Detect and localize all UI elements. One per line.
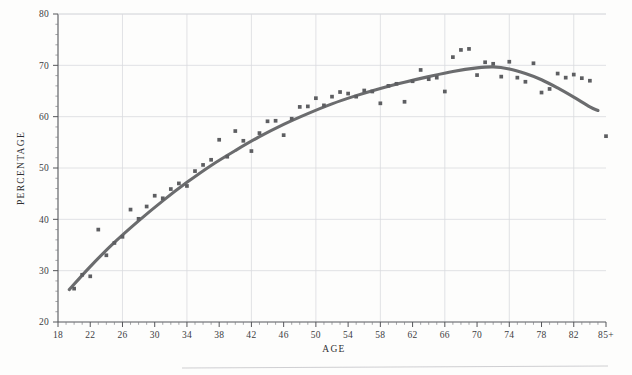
data-point-marker bbox=[153, 194, 157, 198]
y-tick-label: 40 bbox=[39, 215, 49, 225]
y-tick-label: 80 bbox=[39, 9, 49, 19]
data-point-marker bbox=[524, 80, 528, 84]
data-point-marker bbox=[475, 73, 479, 77]
data-point-marker bbox=[177, 182, 181, 186]
data-point-marker bbox=[121, 235, 125, 239]
data-point-marker bbox=[387, 84, 391, 88]
data-point-marker bbox=[548, 87, 552, 91]
x-tick-label: 70 bbox=[472, 330, 482, 340]
y-tick-label: 70 bbox=[39, 61, 49, 71]
x-tick-label: 78 bbox=[536, 330, 546, 340]
data-point-marker bbox=[80, 273, 84, 277]
data-point-marker bbox=[540, 91, 544, 95]
data-point-marker bbox=[233, 129, 237, 133]
x-tick-label: 58 bbox=[375, 330, 385, 340]
data-point-marker bbox=[129, 208, 133, 212]
x-tick-label: 74 bbox=[504, 330, 514, 340]
data-point-marker bbox=[379, 101, 383, 105]
data-point-marker bbox=[282, 133, 286, 137]
data-point-marker bbox=[105, 253, 109, 257]
data-point-marker bbox=[499, 75, 503, 79]
scatter-chart: 2030405060708018222630343842465054586266… bbox=[0, 0, 632, 375]
data-point-marker bbox=[274, 119, 278, 123]
x-tick-label: 54 bbox=[343, 330, 353, 340]
y-tick-label: 50 bbox=[39, 163, 49, 173]
data-point-marker bbox=[572, 73, 576, 77]
fitted-trend-line bbox=[69, 67, 598, 290]
chart-page: 2030405060708018222630343842465054586266… bbox=[0, 0, 632, 375]
x-tick-label: 46 bbox=[279, 330, 289, 340]
footer-divider bbox=[182, 366, 608, 368]
y-tick-label: 60 bbox=[39, 112, 49, 122]
x-tick-label: 26 bbox=[117, 330, 127, 340]
data-point-marker bbox=[532, 61, 536, 65]
fitted-curve bbox=[69, 67, 598, 290]
data-point-marker bbox=[137, 217, 141, 221]
data-points bbox=[72, 47, 608, 290]
data-point-marker bbox=[451, 55, 455, 59]
axis-tick-labels: 2030405060708018222630343842465054586266… bbox=[39, 9, 614, 340]
data-point-marker bbox=[435, 76, 439, 80]
data-point-marker bbox=[370, 90, 374, 94]
data-point-marker bbox=[242, 139, 246, 143]
data-point-marker bbox=[419, 68, 423, 72]
x-tick-label: 42 bbox=[246, 330, 256, 340]
x-tick-label: 18 bbox=[53, 330, 63, 340]
data-point-marker bbox=[258, 131, 262, 135]
data-point-marker bbox=[354, 95, 358, 99]
x-tick-label: 62 bbox=[408, 330, 418, 340]
x-tick-label: 50 bbox=[311, 330, 321, 340]
data-point-marker bbox=[266, 119, 270, 123]
x-axis-title: AGE bbox=[322, 344, 345, 354]
x-tick-label: 30 bbox=[150, 330, 160, 340]
data-point-marker bbox=[403, 100, 407, 104]
data-point-marker bbox=[580, 76, 584, 80]
data-point-marker bbox=[507, 60, 511, 64]
data-point-marker bbox=[306, 105, 310, 109]
data-point-marker bbox=[169, 187, 173, 191]
data-point-marker bbox=[201, 163, 205, 167]
data-point-marker bbox=[96, 228, 100, 232]
data-point-marker bbox=[427, 77, 431, 81]
data-point-marker bbox=[250, 149, 254, 153]
data-point-marker bbox=[225, 155, 229, 159]
data-point-marker bbox=[588, 79, 592, 83]
data-point-marker bbox=[395, 82, 399, 86]
data-point-marker bbox=[346, 92, 350, 96]
data-point-marker bbox=[314, 96, 318, 100]
data-point-marker bbox=[362, 89, 366, 93]
data-point-marker bbox=[516, 76, 520, 80]
data-point-marker bbox=[322, 104, 326, 108]
data-point-marker bbox=[604, 134, 608, 138]
data-point-marker bbox=[556, 72, 560, 76]
x-tick-label: 85+ bbox=[598, 330, 614, 340]
data-point-marker bbox=[145, 205, 149, 209]
data-point-marker bbox=[338, 90, 342, 94]
data-point-marker bbox=[443, 90, 447, 94]
data-point-marker bbox=[193, 169, 197, 173]
data-point-marker bbox=[564, 76, 568, 80]
y-tick-label: 30 bbox=[39, 266, 49, 276]
data-point-marker bbox=[88, 274, 92, 278]
x-tick-label: 38 bbox=[214, 330, 224, 340]
x-tick-label: 66 bbox=[440, 330, 450, 340]
data-point-marker bbox=[330, 95, 334, 99]
data-point-marker bbox=[491, 62, 495, 66]
data-point-marker bbox=[411, 79, 415, 83]
y-axis-title: PERCENTAGE bbox=[16, 131, 26, 205]
data-point-marker bbox=[290, 117, 294, 121]
x-tick-label: 34 bbox=[182, 330, 192, 340]
data-point-marker bbox=[209, 158, 213, 162]
data-point-marker bbox=[459, 48, 463, 52]
axis-ticks bbox=[53, 14, 606, 327]
data-point-marker bbox=[161, 196, 165, 200]
x-tick-label: 22 bbox=[85, 330, 95, 340]
data-point-marker bbox=[298, 105, 302, 109]
gridlines bbox=[58, 14, 606, 322]
data-point-marker bbox=[72, 287, 76, 291]
data-point-marker bbox=[467, 47, 471, 51]
x-tick-label: 82 bbox=[569, 330, 579, 340]
data-point-marker bbox=[185, 184, 189, 188]
data-point-marker bbox=[113, 241, 117, 245]
data-point-marker bbox=[483, 60, 487, 64]
